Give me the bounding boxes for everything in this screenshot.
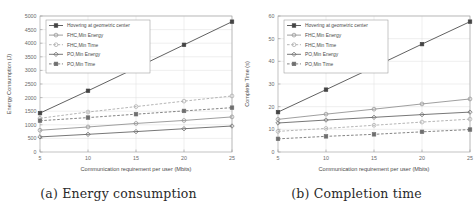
legend-label: PO,Min Time (305, 62, 334, 67)
data-point (420, 42, 424, 46)
legend: Hovering at geometric centerFHC,Min Ener… (46, 20, 150, 73)
x-tick-label: 20 (419, 155, 425, 161)
data-point (468, 128, 472, 132)
y-axis-ticks: 0102030405060 (269, 13, 281, 155)
x-axis-ticks: 510152025 (39, 150, 235, 162)
y-tick-label: 500 (28, 135, 37, 141)
y-tick-label: 3500 (25, 54, 37, 60)
legend-label: FHC,Min Energy (305, 33, 342, 38)
panel-completion-time: 0102030405060510152025Communication requ… (238, 0, 475, 220)
legend-marker (54, 62, 58, 66)
figure-container: 0500100015002000250030003500400045005000… (0, 0, 475, 220)
chart-b-svg: 0102030405060510152025Communication requ… (238, 6, 475, 178)
x-tick-label: 10 (323, 155, 329, 161)
data-point (38, 119, 42, 123)
y-tick-label: 2500 (25, 81, 37, 87)
x-axis-label: Communication requirement per user (Mbit… (81, 166, 192, 172)
x-tick-label: 25 (229, 155, 235, 161)
legend-label: PO,Min Energy (67, 52, 101, 57)
x-tick-label: 20 (181, 155, 187, 161)
data-point (86, 116, 90, 120)
caption-a: (a) Energy consumption (0, 186, 237, 201)
data-point (372, 133, 376, 137)
y-tick-label: 0 (34, 149, 37, 155)
legend-label: FHC,Min Energy (67, 33, 104, 38)
x-tick-label: 10 (85, 155, 91, 161)
legend-label: Hovering at geometric center (305, 23, 368, 28)
x-tick-label: 25 (467, 155, 473, 161)
y-tick-label: 10 (269, 126, 275, 132)
data-point (276, 110, 280, 114)
legend-label: PO,Min Time (67, 62, 96, 67)
y-tick-label: 40 (269, 58, 275, 64)
x-tick-label: 15 (133, 155, 139, 161)
chart-a-svg: 0500100015002000250030003500400045005000… (0, 6, 237, 178)
x-tick-label: 5 (277, 155, 280, 161)
y-tick-label: 4000 (25, 40, 37, 46)
x-axis-label: Communication requirement per user (Mbit… (319, 166, 430, 172)
y-axis-label: Energy Consumption (J) (6, 54, 12, 114)
data-point (230, 20, 234, 24)
legend-marker (292, 24, 296, 28)
y-tick-label: 1000 (25, 122, 37, 128)
x-tick-label: 15 (371, 155, 377, 161)
data-point (276, 137, 280, 141)
y-tick-label: 5000 (25, 13, 37, 19)
caption-b: (b) Completion time (238, 186, 475, 201)
legend-label: PO,Min Energy (305, 52, 339, 57)
data-point (324, 88, 328, 92)
y-tick-label: 20 (269, 104, 275, 110)
plot-area-b: 0102030405060510152025Communication requ… (238, 6, 475, 178)
data-point (182, 43, 186, 47)
legend-marker (54, 24, 58, 28)
legend-label: FHC,Min Time (67, 43, 99, 48)
y-tick-label: 50 (269, 36, 275, 42)
data-point (230, 106, 234, 110)
y-tick-label: 1500 (25, 108, 37, 114)
y-tick-label: 3000 (25, 67, 37, 73)
data-point (38, 111, 42, 115)
legend: Hovering at geometric centerFHC,Min Ener… (284, 20, 388, 73)
y-tick-label: 4500 (25, 27, 37, 33)
x-axis-ticks: 510152025 (277, 150, 473, 162)
data-point (324, 135, 328, 139)
legend-label: Hovering at geometric center (67, 23, 130, 28)
data-point (86, 89, 90, 93)
y-tick-label: 30 (269, 81, 275, 87)
x-tick-label: 5 (39, 155, 42, 161)
data-point (134, 112, 138, 116)
data-point (468, 20, 472, 24)
panel-energy-consumption: 0500100015002000250030003500400045005000… (0, 0, 237, 220)
data-point (182, 109, 186, 113)
legend-marker (292, 62, 296, 66)
y-axis-label: Complete Time (s) (244, 61, 250, 107)
plot-area-a: 0500100015002000250030003500400045005000… (0, 6, 237, 178)
y-tick-label: 60 (269, 13, 275, 19)
y-tick-label: 0 (272, 149, 275, 155)
data-point (420, 130, 424, 134)
legend-label: FHC,Min Time (305, 43, 337, 48)
y-tick-label: 2000 (25, 95, 37, 101)
